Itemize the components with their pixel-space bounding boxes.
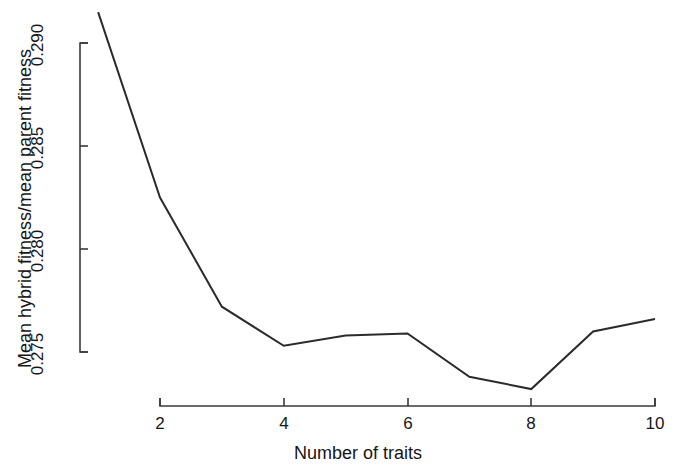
x-tick-label-10: 10	[641, 414, 669, 434]
x-tick-label-4: 4	[274, 414, 294, 434]
line-chart-canvas	[0, 0, 681, 476]
y-axis-line	[80, 43, 88, 352]
x-axis-title: Number of traits	[283, 443, 433, 464]
chart-figure: 0.290 0.285 0.280 0.275 2 4 6 8 10 Mean …	[0, 0, 681, 476]
x-tick-label-2: 2	[150, 414, 170, 434]
x-tick-label-6: 6	[398, 414, 418, 434]
data-series-line	[98, 12, 655, 389]
x-tick-label-8: 8	[521, 414, 541, 434]
y-axis-title: Mean hybrid fitness/mean parent fitness	[15, 39, 36, 379]
